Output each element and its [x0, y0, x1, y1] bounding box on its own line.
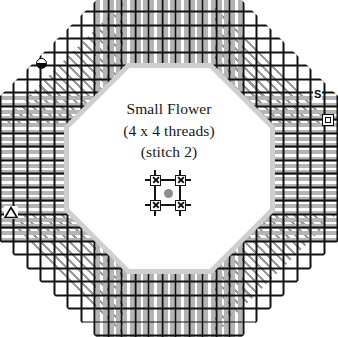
motif-center-dot [164, 189, 173, 198]
stitch-chart-canvas: Small Flower (4 x 4 threads) (stitch 2) … [0, 0, 338, 337]
triangle-marker-icon [4, 206, 18, 219]
circle-marker-icon [36, 58, 47, 69]
small-flower-motif [145, 170, 200, 225]
flower-petal-bottom-left [147, 197, 164, 214]
s-marker-label: S [313, 88, 322, 100]
caption-subtitle: (4 x 4 threads) [0, 120, 338, 142]
flower-petal-top-left [147, 172, 164, 189]
square-marker-icon [322, 114, 334, 126]
flower-petal-bottom-right [172, 197, 189, 214]
caption-note: (stitch 2) [0, 141, 338, 163]
flower-petal-top-right [172, 172, 189, 189]
chart-caption: Small Flower (4 x 4 threads) (stitch 2) [0, 98, 338, 163]
page-title: Small Flower [0, 98, 338, 120]
